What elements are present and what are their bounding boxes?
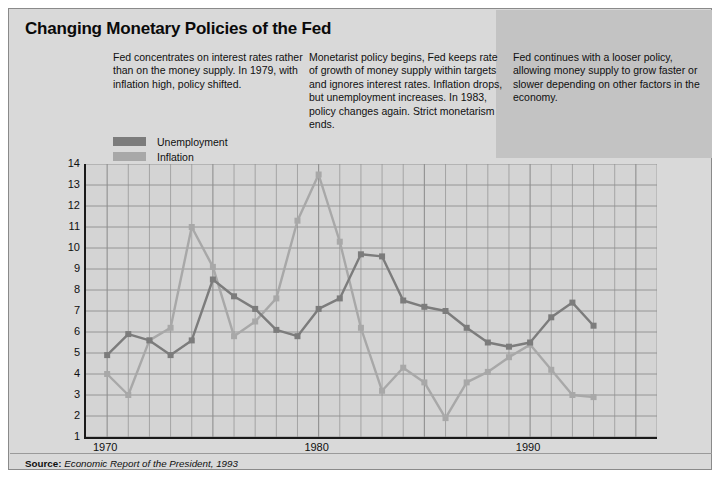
footer-divider [10, 453, 712, 454]
data-point-marker [125, 392, 131, 398]
data-point-marker [189, 337, 195, 343]
data-point-marker [421, 304, 427, 310]
y-axis-tick-label: 5 [54, 346, 80, 358]
source-note: Source: Economic Report of the President… [25, 458, 238, 469]
y-axis-tick-label: 1 [54, 430, 80, 442]
y-axis-tick-label: 10 [54, 241, 80, 253]
data-point-marker [379, 388, 385, 394]
data-point-marker [569, 392, 575, 398]
data-point-marker [506, 344, 512, 350]
data-point-marker [168, 325, 174, 331]
data-point-marker [400, 365, 406, 371]
data-point-marker [273, 327, 279, 333]
plot-wrapper: % Unemployment 1970-1993 a monetary rule… [9, 9, 713, 471]
y-axis-tick-label: 13 [54, 178, 80, 190]
data-point-marker [485, 340, 491, 346]
x-axis-ticks: 197019801990 [84, 441, 659, 457]
data-point-marker [464, 379, 470, 385]
data-point-marker [443, 415, 449, 421]
data-point-marker [591, 394, 597, 400]
data-point-marker [168, 352, 174, 358]
y-axis-tick-label: 7 [54, 304, 80, 316]
data-point-marker [464, 325, 470, 331]
data-point-marker [548, 314, 554, 320]
x-axis-tick-label: 1970 [93, 441, 117, 453]
data-point-marker [506, 354, 512, 360]
data-point-marker [146, 337, 152, 343]
data-point-marker [443, 308, 449, 314]
data-point-marker [337, 239, 343, 245]
data-point-marker [125, 331, 131, 337]
data-point-marker [569, 300, 575, 306]
data-point-marker [548, 367, 554, 373]
y-axis-tick-label: 3 [54, 388, 80, 400]
data-point-marker [294, 218, 300, 224]
y-axis-tick-label: 14 [54, 157, 80, 169]
data-point-marker [210, 264, 216, 270]
data-point-marker [527, 340, 533, 346]
data-point-marker [231, 293, 237, 299]
figure-panel: Changing Monetary Policies of the Fed Fe… [8, 8, 712, 470]
data-point-marker [591, 323, 597, 329]
chart-canvas [86, 164, 657, 437]
y-axis-tick-label: 11 [54, 220, 80, 232]
data-point-marker [252, 319, 258, 325]
data-point-marker [231, 333, 237, 339]
y-axis-tick-label: 12 [54, 199, 80, 211]
data-point-marker [421, 379, 427, 385]
y-axis-tick-label: 6 [54, 325, 80, 337]
data-point-marker [104, 371, 110, 377]
data-point-marker [485, 369, 491, 375]
series-line-inflation [107, 175, 593, 419]
data-point-marker [358, 325, 364, 331]
data-point-marker [252, 306, 258, 312]
data-point-marker [294, 333, 300, 339]
x-axis-tick-label: 1980 [304, 441, 328, 453]
plot-area [84, 164, 657, 439]
data-point-marker [358, 251, 364, 257]
data-point-marker [316, 306, 322, 312]
data-point-marker [400, 298, 406, 304]
data-point-marker [189, 224, 195, 230]
y-axis-tick-label: 8 [54, 283, 80, 295]
x-axis-tick-label: 1990 [516, 441, 540, 453]
source-label: Source: [25, 458, 61, 469]
data-point-marker [379, 253, 385, 259]
data-point-marker [210, 277, 216, 283]
y-axis-tick-label: 9 [54, 262, 80, 274]
y-axis-ticks: 1413121110987654321 [50, 164, 80, 437]
data-point-marker [316, 172, 322, 178]
data-point-marker [337, 295, 343, 301]
y-axis-tick-label: 2 [54, 409, 80, 421]
data-point-marker [273, 295, 279, 301]
source-citation: Economic Report of the President, 1993 [64, 458, 238, 469]
y-axis-tick-label: 4 [54, 367, 80, 379]
data-point-marker [104, 352, 110, 358]
